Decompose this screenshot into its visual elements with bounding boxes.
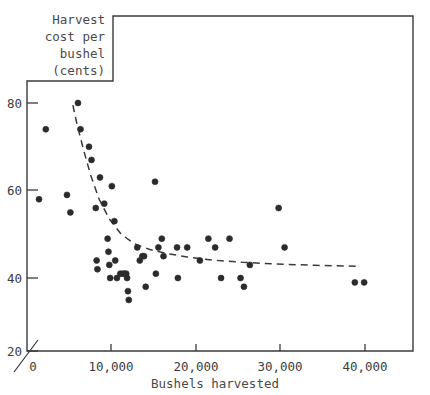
scatter-point (238, 275, 244, 281)
scatter-point (153, 271, 159, 277)
scatter-point (352, 279, 358, 285)
scatter-point (109, 183, 115, 189)
x-tick-label-0: 0 (29, 359, 37, 374)
scatter-point (143, 284, 149, 290)
scatter-point (197, 258, 203, 264)
scatter-point (36, 196, 42, 202)
scatter-point (159, 236, 165, 242)
scatter-point (101, 201, 107, 207)
scatter-point (105, 236, 111, 242)
y-tick-label-60: 60 (7, 183, 22, 198)
scatter-point (134, 244, 140, 250)
scatter-point (160, 253, 166, 259)
x-axis-ticks (111, 344, 365, 351)
scatter-point (124, 275, 130, 281)
scatter-point (105, 249, 111, 255)
y-axis-ticks (27, 103, 38, 351)
scatter-point (107, 275, 113, 281)
y-tick-label-20: 20 (7, 344, 22, 359)
y-axis-title-line-4: (cents) (52, 63, 105, 78)
trend-curve (73, 105, 357, 266)
scatter-point-layer (36, 100, 367, 303)
scatter-point (111, 218, 117, 224)
x-tick-label-20000: 20,000 (173, 359, 218, 374)
chart-canvas: 80 60 40 20 0 10,000 20,000 30,000 40,00… (0, 0, 430, 395)
scatter-point (227, 236, 233, 242)
scatter-point (276, 205, 282, 211)
scatter-point (126, 297, 132, 303)
scatter-point (112, 258, 118, 264)
x-axis-title: Bushels harvested (151, 376, 279, 391)
scatter-point (218, 275, 224, 281)
scatter-point (205, 236, 211, 242)
scatter-point (94, 258, 100, 264)
y-tick-label-80: 80 (7, 96, 22, 111)
scatter-point (361, 279, 367, 285)
x-tick-label-10000: 10,000 (88, 359, 133, 374)
scatter-point (174, 244, 180, 250)
y-tick-label-40: 40 (7, 271, 22, 286)
scatter-point (43, 126, 49, 132)
y-axis-title-line-1: Harvest (52, 12, 105, 27)
scatter-point (89, 157, 95, 163)
scatter-point (141, 253, 147, 259)
scatter-point (64, 192, 70, 198)
scatter-point (75, 100, 81, 106)
y-axis-title-line-2: cost per (45, 29, 106, 44)
scatter-point (125, 288, 131, 294)
scatter-point (86, 144, 92, 150)
scatter-point (97, 174, 103, 180)
scatter-point (152, 179, 158, 185)
scatter-point (67, 209, 73, 215)
x-tick-label-40000: 40,000 (342, 359, 387, 374)
scatter-point (282, 244, 288, 250)
scatter-point (106, 262, 112, 268)
x-tick-label-30000: 30,000 (257, 359, 302, 374)
scatter-plot-figure: 80 60 40 20 0 10,000 20,000 30,000 40,00… (0, 0, 430, 395)
scatter-point (94, 266, 100, 272)
y-axis-title-line-3: bushel (60, 46, 105, 61)
scatter-point (78, 126, 84, 132)
scatter-point (175, 275, 181, 281)
scatter-point (247, 262, 253, 268)
scatter-point (212, 244, 218, 250)
scatter-point (241, 284, 247, 290)
scatter-point (93, 205, 99, 211)
scatter-point (184, 244, 190, 250)
scatter-point (155, 244, 161, 250)
